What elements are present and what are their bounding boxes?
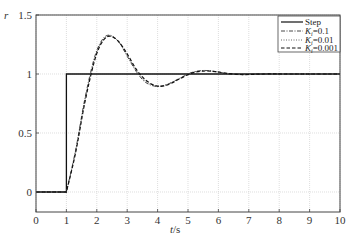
x-tick-label: 1: [64, 214, 70, 226]
x-tick-label: 10: [335, 214, 347, 226]
x-axis-label: t/s: [170, 223, 180, 235]
x-tick-label: 3: [124, 214, 130, 226]
x-tick-label: 9: [307, 214, 313, 226]
y-tick-label: 0: [27, 186, 33, 198]
step-response-chart: 012345678910 00.511.5 r t/s Step Ki=0.1 …: [0, 0, 355, 242]
x-tick-label: 6: [216, 214, 222, 226]
x-axis-label-unit: /s: [173, 223, 180, 235]
x-tick-label: 4: [155, 214, 161, 226]
x-tick-label: 5: [185, 214, 191, 226]
y-tick-label: 0.5: [18, 127, 32, 139]
x-tick-label: 2: [94, 214, 100, 226]
x-tick-label: 7: [246, 214, 252, 226]
y-axis-label: r: [4, 9, 9, 21]
y-tick-label: 1.5: [18, 9, 32, 21]
legend: Step Ki=0.1 Ki=0.01 Ki=0.001: [278, 16, 340, 54]
x-tick-label: 8: [276, 214, 282, 226]
legend-label-ki-0.001: Ki=0.001: [304, 43, 338, 54]
y-tick-label: 1: [27, 68, 33, 80]
x-tick-label: 0: [33, 214, 39, 226]
